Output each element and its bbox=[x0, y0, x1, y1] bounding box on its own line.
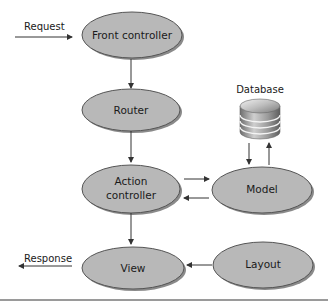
request-edge: Request bbox=[15, 21, 72, 37]
front-controller-node: Front controller bbox=[82, 12, 184, 60]
bottom-rule bbox=[0, 299, 328, 301]
router-node: Router bbox=[82, 89, 182, 133]
view-node: View bbox=[82, 247, 186, 291]
model-node: Model bbox=[212, 167, 314, 215]
action-controller-label-line1: Action bbox=[115, 175, 148, 187]
view-label: View bbox=[121, 262, 146, 274]
database-node: Database bbox=[236, 84, 284, 139]
router-label: Router bbox=[114, 104, 149, 116]
mvc-request-flow-diagram: Request Front controller Router Action c… bbox=[0, 0, 328, 306]
response-label: Response bbox=[24, 253, 72, 264]
database-label: Database bbox=[236, 84, 284, 95]
front-controller-label: Front controller bbox=[92, 29, 173, 41]
layout-node: Layout bbox=[213, 242, 315, 290]
action-controller-node: Action controller bbox=[82, 165, 182, 215]
request-label: Request bbox=[24, 21, 65, 32]
response-edge: Response bbox=[19, 253, 72, 266]
layout-label: Layout bbox=[245, 258, 281, 270]
model-label: Model bbox=[246, 183, 278, 195]
action-controller-label-line2: controller bbox=[106, 189, 157, 201]
